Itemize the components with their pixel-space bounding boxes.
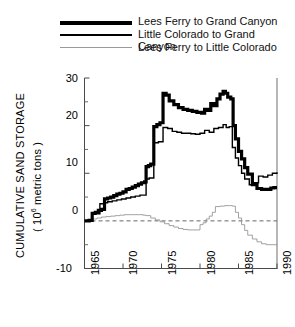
series-lees-ferry-to-little-colorado [85,206,278,245]
data-series-layer [85,91,278,244]
sand-storage-chart: Lees Ferry to Grand Canyon Little Colora… [0,0,295,327]
y-axis-major-ticks [85,78,90,269]
plot-area [0,0,295,327]
x-axis-major-ticks [85,264,278,269]
